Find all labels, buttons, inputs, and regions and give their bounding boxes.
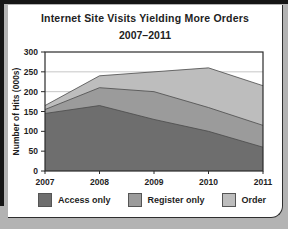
svg-text:200: 200 xyxy=(24,87,38,97)
svg-text:50: 50 xyxy=(29,146,39,156)
svg-text:2011: 2011 xyxy=(254,177,273,187)
svg-text:150: 150 xyxy=(24,107,38,117)
svg-text:250: 250 xyxy=(24,67,38,77)
chart-subtitle: 2007–2011 xyxy=(8,29,282,42)
figure-panel: Internet Site Visits Yielding More Order… xyxy=(8,5,283,218)
title-block: Internet Site Visits Yielding More Order… xyxy=(8,5,282,42)
page-edge-top xyxy=(0,0,288,4)
svg-text:2010: 2010 xyxy=(199,177,218,187)
page-edge-left xyxy=(0,0,4,206)
svg-text:2008: 2008 xyxy=(90,177,109,187)
svg-text:100: 100 xyxy=(24,126,38,136)
svg-text:300: 300 xyxy=(24,47,38,57)
svg-text:0: 0 xyxy=(33,166,38,176)
svg-text:2009: 2009 xyxy=(145,177,164,187)
chart-title: Internet Site Visits Yielding More Order… xyxy=(8,12,282,25)
svg-text:Number of Hits (000s): Number of Hits (000s) xyxy=(11,67,21,155)
svg-text:2007: 2007 xyxy=(36,177,55,187)
